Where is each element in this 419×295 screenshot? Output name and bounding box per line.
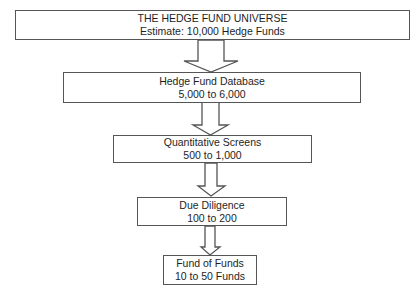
stage-fund-of-funds: Fund of Funds 10 to 50 Funds	[163, 255, 257, 285]
stage-count: 5,000 to 6,000	[178, 88, 245, 101]
down-arrow-icon	[184, 40, 238, 72]
stage-title: Fund of Funds	[176, 257, 244, 270]
stage-count: 100 to 200	[187, 212, 237, 225]
stage-count: 10 to 50 Funds	[175, 270, 245, 283]
stage-hedge-fund-universe: THE HEDGE FUND UNIVERSE Estimate: 10,000…	[15, 10, 410, 40]
stage-title: Hedge Fund Database	[159, 75, 265, 88]
stage-due-diligence: Due Diligence 100 to 200	[137, 197, 287, 226]
stage-title: THE HEDGE FUND UNIVERSE	[138, 12, 288, 25]
stage-count: 500 to 1,000	[183, 149, 241, 162]
stage-count: Estimate: 10,000 Hedge Funds	[140, 25, 285, 38]
stage-quantitative-screens: Quantitative Screens 500 to 1,000	[113, 135, 312, 163]
down-arrow-icon	[193, 102, 228, 135]
down-arrow-icon	[198, 163, 225, 196]
stage-hedge-fund-database: Hedge Fund Database 5,000 to 6,000	[63, 72, 361, 103]
stage-title: Quantitative Screens	[164, 136, 261, 149]
stage-title: Due Diligence	[179, 199, 244, 212]
down-arrow-icon	[201, 226, 220, 255]
